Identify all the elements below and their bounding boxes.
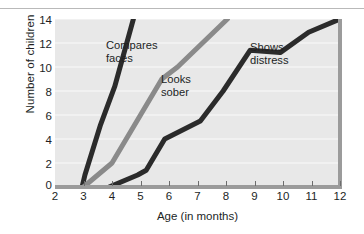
chart-figure: Number of children 14 12 10 8 6 4 2 0 23… [0, 0, 364, 234]
x-tick-label: 9 [243, 191, 267, 203]
x-tick-label: 11 [300, 191, 324, 203]
x-tick-label: 6 [157, 191, 181, 203]
x-tick-mark [283, 181, 284, 186]
x-tick-mark [112, 181, 113, 186]
x-tick-label: 12 [328, 191, 352, 203]
x-tick-label: 2 [43, 191, 67, 203]
x-tick-mark [340, 181, 341, 186]
x-tick-mark [169, 181, 170, 186]
x-tick-mark [226, 181, 227, 186]
series-label-shows-distress: Shows distress [250, 41, 289, 66]
x-tick-mark [198, 181, 199, 186]
x-tick-label: 10 [271, 191, 295, 203]
x-tick-label: 7 [186, 191, 210, 203]
x-axis-title: Age (in months) [55, 210, 340, 222]
x-tick-mark [255, 181, 256, 186]
series-label-compares-faces: Compares faces [106, 39, 158, 64]
x-tick-mark [141, 181, 142, 186]
x-tick-mark [84, 181, 85, 186]
x-tick-label: 5 [129, 191, 153, 203]
x-axis-tick-labels: 23456789101112 [0, 0, 364, 234]
x-tick-label: 4 [100, 191, 124, 203]
x-tick-label: 3 [72, 191, 96, 203]
x-tick-mark [312, 181, 313, 186]
series-label-looks-sober: Looks sober [161, 73, 191, 98]
x-tick-label: 8 [214, 191, 238, 203]
